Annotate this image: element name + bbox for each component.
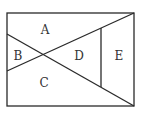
region-label-e: E — [115, 49, 124, 63]
region-label-b: B — [14, 49, 23, 63]
partitioned-rectangle-diagram: A B C D E — [0, 0, 146, 114]
region-label-d: D — [74, 49, 84, 63]
diagram-canvas: A B C D E — [0, 0, 146, 114]
region-label-a: A — [40, 23, 50, 37]
region-label-c: C — [39, 76, 48, 90]
diagonal-line-down — [7, 34, 134, 106]
